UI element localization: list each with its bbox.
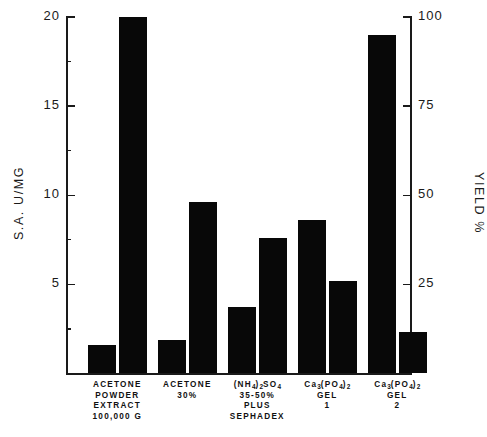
y-tick-label-left-20: 20: [0, 8, 60, 23]
y-tick-left-10: [66, 195, 75, 196]
y-tick-label-left-15: 15: [0, 97, 60, 112]
x-category-label-4: Ca3(PO4)2GEL2: [348, 380, 447, 412]
y-tick-right-25: [403, 284, 412, 285]
x-category-label-line: 100,000 G: [68, 412, 167, 423]
y-tick-right-50: [403, 195, 412, 196]
y-axis-right-spine: [410, 17, 412, 375]
y-tick-left-minor: [66, 61, 71, 62]
y-tick-label-right-25: 25: [418, 275, 478, 290]
y-tick-left-20: [66, 16, 75, 17]
bar-sa-2: [228, 307, 256, 373]
plot-area: 5101520 255075100: [66, 17, 412, 375]
y-tick-left-15: [66, 105, 75, 106]
y-tick-left-minor: [66, 328, 71, 329]
y-tick-left-5: [66, 284, 75, 285]
bar-yield-2: [259, 238, 287, 373]
bar-chart-figure: S.A. U/MG YIELD % 5101520 255075100 ACET…: [0, 0, 487, 437]
y-axis-right-title: YIELD %: [472, 148, 486, 258]
y-tick-label-right-50: 50: [418, 186, 478, 201]
bar-sa-3: [298, 220, 326, 373]
bar-yield-1: [189, 202, 217, 373]
x-axis-spine: [66, 373, 412, 375]
x-category-label-line: Ca3(PO4)2: [348, 380, 447, 391]
x-axis-category-labels: ACETONEPOWDEREXTRACT100,000 GACETONE30%(…: [66, 380, 412, 437]
bar-yield-3: [329, 281, 357, 374]
y-tick-right-100: [403, 16, 412, 17]
y-axis-left-spine: [66, 17, 68, 375]
bar-sa-4: [368, 35, 396, 374]
y-tick-left-minor: [66, 150, 71, 151]
bar-sa-1: [158, 340, 186, 374]
x-category-label-line: SEPHADEX: [208, 412, 307, 423]
bar-sa-0: [88, 345, 116, 374]
y-tick-label-right-100: 100: [418, 8, 478, 23]
y-tick-label-left-10: 10: [0, 186, 60, 201]
bar-yield-4: [399, 332, 427, 373]
x-category-label-line: GEL: [348, 391, 447, 402]
y-axis-left-title: S.A. U/MG: [12, 148, 26, 258]
x-category-label-line: EXTRACT: [68, 401, 167, 412]
y-tick-label-left-5: 5: [0, 275, 60, 290]
x-category-label-line: 2: [348, 401, 447, 412]
y-tick-label-right-75: 75: [418, 97, 478, 112]
bar-yield-0: [119, 17, 147, 373]
y-tick-left-minor: [66, 239, 71, 240]
y-tick-right-75: [403, 105, 412, 106]
